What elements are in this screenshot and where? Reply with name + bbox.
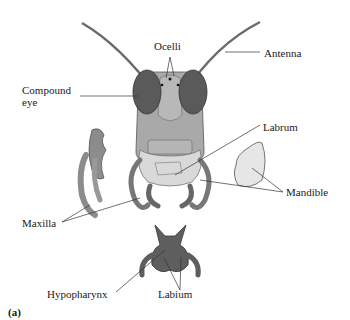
frons	[158, 75, 182, 121]
label-labrum: Labrum	[263, 121, 298, 133]
label-labium: Labium	[158, 288, 192, 300]
labial-palp-left	[142, 255, 152, 275]
label-compound-eye-line2: eye	[22, 96, 37, 108]
median-ocellus	[169, 78, 172, 81]
labium-shape	[152, 225, 189, 272]
panel-label: (a)	[8, 306, 21, 318]
left-compound-eye	[133, 70, 161, 114]
label-antenna: Antenna	[264, 47, 301, 59]
right-compound-eye	[179, 70, 207, 114]
label-compound-eye-line1: Compound	[22, 84, 71, 96]
label-hypopharynx: Hypopharynx	[47, 288, 108, 300]
left-maxilla	[89, 129, 106, 179]
right-mandible	[234, 142, 265, 186]
insect-mouthparts-diagram: Ocelli Antenna Compound eye Labrum Mandi…	[0, 0, 350, 320]
label-mandible: Mandible	[286, 186, 328, 198]
right-ocellus	[177, 84, 180, 87]
clypeus	[148, 140, 192, 154]
label-ocelli: Ocelli	[154, 40, 181, 52]
label-maxilla: Maxilla	[22, 217, 56, 229]
left-ocellus	[161, 84, 164, 87]
labial-palp-right	[188, 255, 198, 275]
